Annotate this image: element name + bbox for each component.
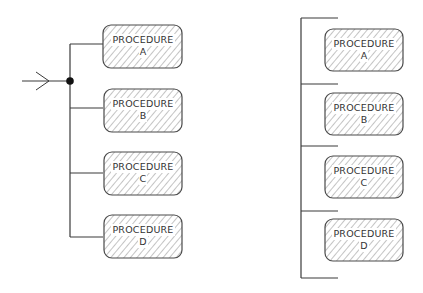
label-line1: PROCEDURE <box>332 102 395 114</box>
right-procedure-b-label: PROCEDURE B <box>324 102 404 126</box>
label-line1: PROCEDURE <box>332 228 395 240</box>
label-line1: PROCEDURE <box>111 98 174 110</box>
label-line1: PROCEDURE <box>332 165 395 177</box>
label-line2: B <box>139 110 148 122</box>
left-procedure-c-label: PROCEDURE C <box>103 161 183 185</box>
right-procedure-c-label: PROCEDURE C <box>324 165 404 189</box>
right-procedure-a-label: PROCEDURE A <box>324 38 404 62</box>
label-line2: B <box>360 114 369 126</box>
label-line2: C <box>360 177 369 189</box>
label-line2: C <box>139 173 148 185</box>
right-procedure-d-label: PROCEDURE D <box>324 228 404 252</box>
entry-arrow-icon <box>22 72 70 90</box>
label-line2: D <box>359 240 369 252</box>
junction-dot-icon <box>66 77 74 85</box>
label-line1: PROCEDURE <box>332 38 395 50</box>
left-procedure-d-label: PROCEDURE D <box>103 224 183 248</box>
label-line2: A <box>139 46 148 58</box>
label-line2: A <box>360 50 369 62</box>
left-procedure-a-label: PROCEDURE A <box>103 34 183 58</box>
label-line1: PROCEDURE <box>111 34 174 46</box>
label-line1: PROCEDURE <box>111 224 174 236</box>
label-line2: D <box>138 236 148 248</box>
label-line1: PROCEDURE <box>111 161 174 173</box>
left-procedure-b-label: PROCEDURE B <box>103 98 183 122</box>
